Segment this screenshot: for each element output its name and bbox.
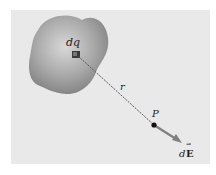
point-p xyxy=(151,122,156,127)
field-vector-shaft xyxy=(154,125,176,139)
distance-line xyxy=(78,56,154,125)
electric-field-diagram: dq r P d E → xyxy=(0,0,216,175)
de-label-d: d xyxy=(179,148,185,159)
field-vector-arrowhead xyxy=(172,134,182,143)
p-label: P xyxy=(151,108,159,119)
r-label: r xyxy=(120,81,126,92)
dq-label: dq xyxy=(66,36,80,49)
vector-arrow-mark: → xyxy=(186,140,191,147)
charged-body xyxy=(29,15,108,94)
de-label-e: E xyxy=(186,148,194,159)
